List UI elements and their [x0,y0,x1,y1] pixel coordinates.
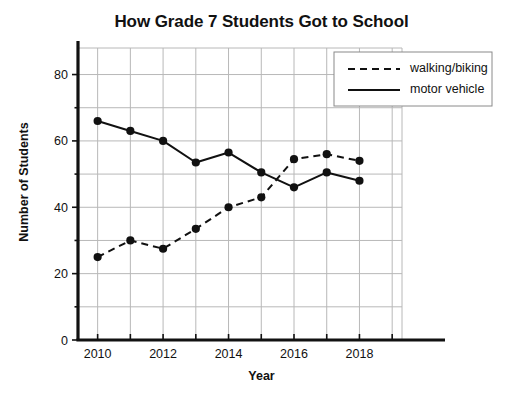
y-tick-label: 0 [61,334,68,348]
legend-label-0: walking/biking [409,61,488,75]
chart-legend: walking/bikingmotor vehicle [334,52,492,106]
y-tick-label: 20 [54,267,68,281]
y-tick-label: 60 [54,134,68,148]
y-tick-label: 40 [54,201,68,215]
chart-figure: How Grade 7 Students Got to School Numbe… [0,0,523,399]
data-point-marker [323,150,331,158]
x-tick-labels: 20102012201420162018 [84,347,374,361]
x-tick-label: 2014 [215,347,243,361]
data-point-marker [94,117,102,125]
data-point-marker [126,236,134,244]
data-point-marker [126,127,134,135]
data-point-marker [192,225,200,233]
x-tick-label: 2018 [346,347,374,361]
data-point-marker [192,158,200,166]
x-tick-label: 2016 [280,347,308,361]
data-point-marker [224,148,232,156]
y-tick-labels: 020406080 [54,68,68,347]
data-point-marker [94,253,102,261]
data-point-marker [355,157,363,165]
legend-box [334,52,492,106]
data-point-marker [290,155,298,163]
data-point-marker [257,193,265,201]
data-point-marker [323,168,331,176]
data-point-marker [159,137,167,145]
x-tick-label: 2010 [84,347,112,361]
x-tick-label: 2012 [149,347,177,361]
legend-label-1: motor vehicle [410,82,484,96]
plot-area: 020406080 20102012201420162018 walking/b… [0,0,523,399]
data-point-marker [257,168,265,176]
data-point-marker [224,203,232,211]
data-point-marker [290,183,298,191]
data-point-marker [159,245,167,253]
y-tick-label: 80 [54,68,68,82]
data-point-marker [355,177,363,185]
